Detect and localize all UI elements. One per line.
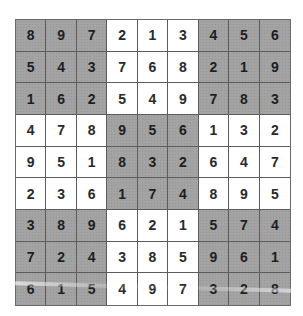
cell-r8c6[interactable]: 5 [168,242,198,274]
cell-r6c8[interactable]: 9 [229,178,259,210]
cell-r6c7[interactable]: 8 [199,178,229,210]
cell-r3c6[interactable]: 9 [168,83,198,115]
cell-r9c9[interactable]: 8 [260,273,290,305]
cell-r3c7[interactable]: 7 [199,83,229,115]
cell-r2c8[interactable]: 1 [229,52,259,84]
cell-r9c8[interactable]: 2 [229,273,259,305]
cell-r4c4[interactable]: 9 [107,115,137,147]
cell-r7c6[interactable]: 1 [168,210,198,242]
cell-r9c2[interactable]: 1 [46,273,76,305]
cell-r2c7[interactable]: 2 [199,52,229,84]
cell-r6c4[interactable]: 1 [107,178,137,210]
cell-r6c9[interactable]: 5 [260,178,290,210]
cell-r1c3[interactable]: 7 [77,20,107,52]
cell-r2c5[interactable]: 6 [138,52,168,84]
cell-r1c5[interactable]: 1 [138,20,168,52]
cell-r8c2[interactable]: 2 [46,242,76,274]
cell-r4c7[interactable]: 1 [199,115,229,147]
cell-r1c7[interactable]: 4 [199,20,229,52]
cell-r5c1[interactable]: 9 [16,147,46,179]
cell-r5c5[interactable]: 3 [138,147,168,179]
cell-r7c8[interactable]: 7 [229,210,259,242]
cell-r4c6[interactable]: 6 [168,115,198,147]
cell-r7c2[interactable]: 8 [46,210,76,242]
cell-r9c7[interactable]: 3 [199,273,229,305]
cell-r7c4[interactable]: 6 [107,210,137,242]
cell-r4c3[interactable]: 8 [77,115,107,147]
cell-r4c2[interactable]: 7 [46,115,76,147]
cell-r5c6[interactable]: 2 [168,147,198,179]
cell-r5c8[interactable]: 4 [229,147,259,179]
cell-r7c1[interactable]: 3 [16,210,46,242]
cell-r2c2[interactable]: 4 [46,52,76,84]
cell-r4c9[interactable]: 2 [260,115,290,147]
cell-r4c8[interactable]: 3 [229,115,259,147]
cell-r2c3[interactable]: 3 [77,52,107,84]
cell-r6c1[interactable]: 2 [16,178,46,210]
cell-r5c9[interactable]: 7 [260,147,290,179]
cell-r2c6[interactable]: 8 [168,52,198,84]
cell-r7c7[interactable]: 5 [199,210,229,242]
cell-r2c9[interactable]: 9 [260,52,290,84]
cell-r8c4[interactable]: 3 [107,242,137,274]
cell-r1c9[interactable]: 6 [260,20,290,52]
cell-r6c6[interactable]: 4 [168,178,198,210]
cell-r4c5[interactable]: 5 [138,115,168,147]
cell-r1c4[interactable]: 2 [107,20,137,52]
cell-r5c2[interactable]: 5 [46,147,76,179]
cell-r1c6[interactable]: 3 [168,20,198,52]
cell-r9c1[interactable]: 6 [16,273,46,305]
cell-r4c1[interactable]: 4 [16,115,46,147]
cell-r8c7[interactable]: 9 [199,242,229,274]
cell-r8c3[interactable]: 4 [77,242,107,274]
cell-r8c1[interactable]: 7 [16,242,46,274]
cell-r5c7[interactable]: 6 [199,147,229,179]
cell-r3c5[interactable]: 4 [138,83,168,115]
cell-r3c3[interactable]: 2 [77,83,107,115]
cell-r7c5[interactable]: 2 [138,210,168,242]
cell-r3c4[interactable]: 5 [107,83,137,115]
cell-r9c5[interactable]: 9 [138,273,168,305]
cell-r1c8[interactable]: 5 [229,20,259,52]
cell-r1c2[interactable]: 9 [46,20,76,52]
sudoku-board: 8972134565437682191625497834789561329518… [15,19,291,306]
cell-r9c4[interactable]: 4 [107,273,137,305]
cell-r8c5[interactable]: 8 [138,242,168,274]
cell-r3c9[interactable]: 3 [260,83,290,115]
cell-r2c1[interactable]: 5 [16,52,46,84]
cell-r3c8[interactable]: 8 [229,83,259,115]
cell-r6c5[interactable]: 7 [138,178,168,210]
cell-r9c3[interactable]: 5 [77,273,107,305]
cell-r7c3[interactable]: 9 [77,210,107,242]
cell-r3c1[interactable]: 1 [16,83,46,115]
cell-r8c8[interactable]: 6 [229,242,259,274]
cell-r5c3[interactable]: 1 [77,147,107,179]
cell-r1c1[interactable]: 8 [16,20,46,52]
cell-r3c2[interactable]: 6 [46,83,76,115]
cell-r2c4[interactable]: 7 [107,52,137,84]
cell-r6c2[interactable]: 3 [46,178,76,210]
cell-r6c3[interactable]: 6 [77,178,107,210]
cell-r5c4[interactable]: 8 [107,147,137,179]
cell-r9c6[interactable]: 7 [168,273,198,305]
cell-r8c9[interactable]: 1 [260,242,290,274]
cell-r7c9[interactable]: 4 [260,210,290,242]
